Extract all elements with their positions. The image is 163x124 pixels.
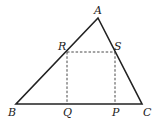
label-q: Q	[63, 106, 72, 119]
label-a: A	[93, 4, 102, 17]
label-r: R	[57, 40, 66, 53]
geometry-diagram: A R S B Q P C	[0, 0, 163, 124]
triangle-abc	[16, 18, 142, 104]
label-p: P	[111, 106, 120, 119]
label-c: C	[143, 106, 152, 119]
label-b: B	[7, 106, 16, 119]
label-s: S	[114, 40, 122, 53]
